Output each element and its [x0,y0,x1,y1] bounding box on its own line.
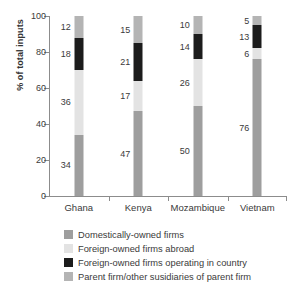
bar-segment-value: 18 [61,49,71,59]
bar-group: 766135Vietnam [228,16,288,196]
legend-label: Parent firm/other susidiaries of parent … [78,272,251,282]
bar-segment[interactable] [193,106,202,196]
bar-segment[interactable] [74,38,83,70]
legend-swatch [64,244,73,253]
y-tick-label: 80 [36,47,46,57]
bar-segment-value: 47 [120,149,130,159]
bar-segment-value: 14 [180,42,190,52]
bar-segment[interactable] [74,135,83,196]
legend-swatch [64,272,73,281]
chart-legend: Domestically-owned firmsForeign-owned fi… [64,228,251,283]
bar-segment-value: 15 [120,25,130,35]
bar-segment[interactable] [134,43,143,81]
bar-segment-value: 13 [239,32,249,42]
stacked-bar[interactable] [134,16,143,196]
bar-segment[interactable] [134,16,143,43]
bar-segment-value: 50 [180,146,190,156]
x-tick-mark [168,196,169,201]
bar-segment-value: 17 [120,91,130,101]
legend-label: Foreign-owned firms operating in country [78,258,247,268]
bar-group: 34361812Ghana [49,16,109,196]
legend-label: Foreign-owned firms abroad [78,244,194,254]
bar-segment[interactable] [134,111,143,196]
bar-segment-value: 6 [244,49,249,59]
stacked-bar[interactable] [253,16,262,196]
bar-segment[interactable] [253,48,262,59]
legend-item[interactable]: Foreign-owned firms abroad [64,242,251,255]
y-tick-label: 100 [31,11,46,21]
x-tick-mark [109,196,110,201]
y-axis-title: % of total inputs [15,0,25,120]
y-tick-label: 60 [36,83,46,93]
bar-segment[interactable] [253,25,262,48]
bar-segment[interactable] [74,16,83,38]
x-axis-category-label: Ghana [64,202,93,213]
bar-group: 47172115Kenya [109,16,169,196]
bar-segment-value: 26 [180,78,190,88]
bar-segment[interactable] [193,34,202,59]
legend-item[interactable]: Domestically-owned firms [64,228,251,241]
x-tick-mark [286,196,287,201]
stacked-bar-chart: % of total inputs 020406080100 34361812G… [0,0,292,289]
bar-segment[interactable] [193,59,202,106]
y-tick-label: 0 [41,191,46,201]
bar-segment-value: 21 [120,57,130,67]
bar-segment[interactable] [253,59,262,196]
legend-label: Domestically-owned firms [78,230,184,240]
x-tick-mark [228,196,229,201]
bar-segment-value: 34 [61,160,71,170]
bar-segment-value: 76 [239,123,249,133]
bar-segment-value: 12 [61,22,71,32]
legend-swatch [64,230,73,239]
legend-item[interactable]: Foreign-owned firms operating in country [64,256,251,269]
y-tick-label: 20 [36,155,46,165]
x-axis-category-label: Vietnam [240,202,275,213]
x-axis-category-label: Kenya [125,202,152,213]
bar-segment-value: 10 [180,20,190,30]
stacked-bar[interactable] [193,16,202,196]
bar-segment[interactable] [253,16,262,25]
bar-segment-value: 36 [61,97,71,107]
stacked-bar[interactable] [74,16,83,196]
x-axis-category-label: Mozambique [171,202,225,213]
plot-area: 020406080100 34361812Ghana47172115Kenya5… [49,16,287,196]
y-tick-label: 40 [36,119,46,129]
legend-swatch [64,258,73,267]
bar-segment-value: 5 [244,16,249,26]
bar-segment[interactable] [74,70,83,135]
legend-item[interactable]: Parent firm/other susidiaries of parent … [64,270,251,283]
bar-segment[interactable] [193,16,202,34]
bar-group: 50261410Mozambique [168,16,228,196]
bar-segment[interactable] [134,81,143,112]
